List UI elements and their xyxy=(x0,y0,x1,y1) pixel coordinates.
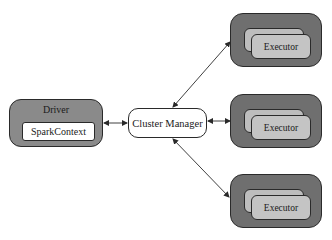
cluster-manager-box: Cluster Manager xyxy=(128,108,207,138)
executor-box-bottom: Executor xyxy=(251,195,311,220)
executor-box-middle: Executor xyxy=(251,115,311,140)
executor-box-top: Executor xyxy=(251,34,311,59)
arrow-cluster-manager-executor-bottom xyxy=(173,139,229,197)
arrow-cluster-manager-executor-top xyxy=(173,42,230,107)
spark-context-box: SparkContext xyxy=(22,122,95,141)
driver-label: Driver xyxy=(10,104,102,115)
